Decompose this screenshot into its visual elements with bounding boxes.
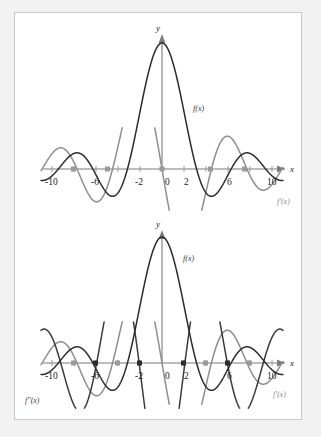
top-y-axis-label: y: [155, 23, 160, 33]
bottom-x-axis-label: x: [289, 358, 294, 368]
top-ticklabel-neg10: -10: [45, 177, 58, 187]
top-ticklabel-neg6: -6: [91, 177, 99, 187]
bottom-y-axis-label: y: [155, 219, 160, 229]
top-label-f-prime: f'(x): [277, 197, 290, 206]
top-ticklabel-10: 10: [267, 177, 277, 187]
bottom-ticklabel-2: 2: [184, 371, 189, 381]
top-ticklabel-origin: 0: [165, 177, 170, 187]
chart-panel-top: -10 -6 -2 0 2 6 10 y x f(x) f'(x): [15, 15, 303, 215]
bottom-ticklabel-neg6: -6: [91, 371, 99, 381]
top-ticklabel-2: 2: [184, 177, 189, 187]
bottom-ticklabel-10: 10: [267, 371, 277, 381]
bottom-label-f: f(x): [183, 254, 194, 263]
bottom-panel-svg: -10 -6 -2 0 2 6 10 y x f(x) f'(x) f''(x): [15, 211, 303, 419]
figure-frame: -10 -6 -2 0 2 6 10 y x f(x) f'(x): [14, 12, 302, 420]
top-ticklabel-neg2: -2: [135, 177, 143, 187]
top-ticklabel-6: 6: [227, 177, 232, 187]
bottom-label-f-double-prime: f''(x): [25, 396, 40, 405]
bottom-label-f-prime: f'(x): [273, 390, 286, 399]
bottom-ticklabel-neg10: -10: [45, 371, 58, 381]
top-x-axis-label: x: [289, 164, 294, 174]
bottom-ticklabel-6: 6: [227, 371, 232, 381]
bottom-y-axis: [159, 230, 166, 363]
bottom-ticklabel-origin: 0: [165, 371, 170, 381]
top-panel-svg: -10 -6 -2 0 2 6 10 y x f(x) f'(x): [15, 15, 303, 215]
top-label-f: f(x): [193, 104, 204, 113]
top-y-axis: [159, 34, 166, 169]
chart-panel-bottom: -10 -6 -2 0 2 6 10 y x f(x) f'(x) f''(x): [15, 211, 303, 419]
bottom-ticklabel-neg2: -2: [135, 371, 143, 381]
